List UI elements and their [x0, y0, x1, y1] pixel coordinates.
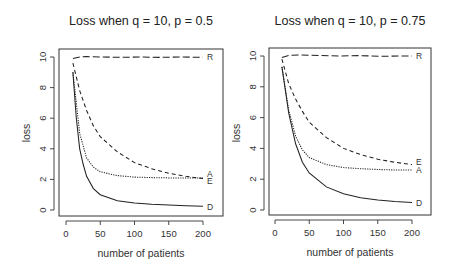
right-series-A [282, 67, 412, 170]
right-label-D: D [416, 198, 422, 208]
right-x-label: number of patients [307, 246, 394, 258]
right-y-axis: 0 2 4 6 8 10 loss [230, 51, 264, 213]
left-x-label: number of patients [98, 247, 185, 259]
left-label-D: D [207, 202, 213, 212]
y-tick: 0 [247, 207, 258, 212]
x-tick: 200 [195, 228, 211, 239]
left-series-R [73, 57, 203, 59]
left-plot-box [59, 49, 223, 216]
right-panel: Loss when q = 10, p = 0.75 0 2 4 6 8 10 … [230, 14, 431, 258]
x-tick: 200 [404, 227, 420, 238]
figure: Loss when q = 10, p = 0.5 0 2 4 6 8 10 l… [0, 0, 453, 270]
left-series-E [73, 63, 203, 179]
y-tick: 4 [247, 146, 258, 151]
x-tick: 100 [336, 227, 352, 238]
right-series-D [282, 67, 412, 203]
x-tick: 150 [370, 227, 386, 238]
y-tick: 4 [37, 146, 48, 151]
left-title: Loss when q = 10, p = 0.5 [69, 14, 213, 28]
right-label-A: A [416, 165, 422, 175]
y-tick: 8 [37, 85, 48, 90]
left-series-D [73, 72, 203, 206]
right-series-R [282, 55, 412, 58]
left-series-A [73, 72, 203, 178]
x-tick: 150 [161, 228, 177, 239]
left-x-axis: 0 50 100 150 200 number of patients [63, 221, 211, 259]
y-tick: 2 [37, 177, 48, 182]
y-tick: 2 [247, 177, 258, 182]
y-tick: 6 [37, 116, 48, 121]
x-tick: 0 [272, 227, 277, 238]
left-panel: Loss when q = 10, p = 0.5 0 2 4 6 8 10 l… [20, 14, 223, 259]
y-tick: 0 [37, 207, 48, 212]
right-title: Loss when q = 10, p = 0.75 [275, 14, 426, 28]
right-label-R: R [416, 51, 422, 61]
right-y-label: loss [230, 124, 242, 143]
x-tick: 50 [304, 227, 315, 238]
left-label-E: E [207, 176, 213, 186]
y-tick: 8 [247, 84, 258, 89]
y-tick: 10 [247, 51, 258, 62]
left-y-axis: 0 2 4 6 8 10 loss [20, 52, 54, 213]
x-tick: 50 [95, 228, 106, 239]
right-x-axis: 0 50 100 150 200 number of patients [272, 220, 420, 258]
left-y-label: loss [20, 124, 32, 143]
y-tick: 6 [247, 115, 258, 120]
left-label-R: R [207, 52, 213, 62]
y-tick: 10 [37, 52, 48, 63]
x-tick: 0 [63, 228, 68, 239]
x-tick: 100 [127, 228, 143, 239]
